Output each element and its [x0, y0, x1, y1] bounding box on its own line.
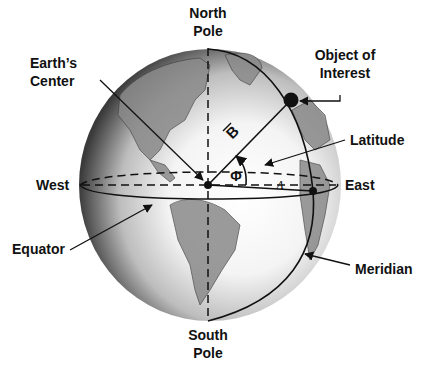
south-pole-label: South Pole	[178, 326, 238, 362]
east-label: East	[345, 176, 375, 194]
center-line1: Earth’s	[30, 54, 100, 72]
equator-meridian-point	[309, 187, 317, 195]
north-pole-label: North Pole	[178, 4, 238, 40]
equator-label: Equator	[12, 240, 65, 258]
center-line2: Center	[30, 72, 100, 90]
north-pole-line2: Pole	[178, 22, 238, 40]
latitude-label: Latitude	[350, 131, 404, 149]
earth-center-point	[204, 181, 212, 189]
meridian-label: Meridian	[355, 260, 413, 278]
south-pole-line2: Pole	[178, 344, 238, 362]
earths-center-label: Earth’s Center	[30, 54, 100, 90]
object-line2: Interest	[300, 64, 390, 82]
south-pole-line1: South	[178, 326, 238, 344]
phi-symbol: Φ	[230, 168, 242, 184]
object-line1: Object of	[300, 46, 390, 64]
object-of-interest-point	[284, 93, 299, 108]
object-of-interest-label: Object of Interest	[300, 46, 390, 82]
north-pole-line1: North	[178, 4, 238, 22]
west-label: West	[36, 176, 69, 194]
lambda-symbol: Λ	[275, 178, 284, 192]
